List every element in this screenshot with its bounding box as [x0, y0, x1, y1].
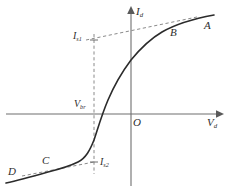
upper-asymptote-dashed-line: [86, 17, 197, 40]
y-axis: [127, 6, 135, 186]
x-axis: [6, 110, 224, 118]
iv-characteristic-curve: [6, 15, 214, 183]
point-label-a: A: [204, 20, 211, 31]
point-label-d: D: [8, 166, 16, 177]
breakdown-voltage-label: Vbr: [74, 99, 86, 110]
point-label-b: B: [170, 27, 177, 38]
x-axis-label: Vd: [207, 117, 217, 130]
saturation-current-upper-label: Is1: [73, 31, 82, 42]
point-label-c: C: [42, 155, 49, 166]
y-axis-label: Id: [136, 6, 143, 19]
saturation-current-lower-label: Is2: [100, 157, 109, 168]
origin-label: O: [133, 117, 141, 128]
iv-curve-figure: Id Vd O A B C D Vbr Is1 Is2: [0, 0, 239, 190]
